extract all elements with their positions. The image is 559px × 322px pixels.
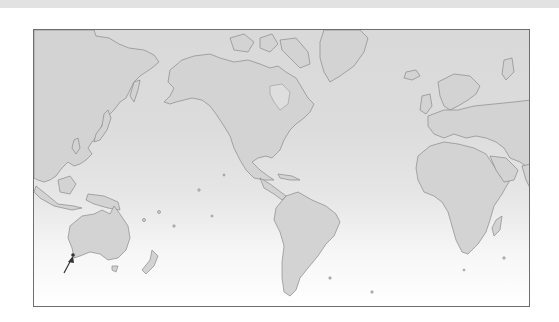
tasmania bbox=[112, 266, 118, 272]
central-america bbox=[260, 178, 286, 200]
cuba bbox=[278, 174, 300, 180]
pacific-island bbox=[223, 174, 225, 176]
pacific-island bbox=[211, 215, 213, 217]
indian-ocean-island bbox=[503, 257, 505, 259]
baffin-island bbox=[280, 38, 310, 68]
indian-ocean-island bbox=[463, 269, 465, 271]
north-america bbox=[164, 54, 314, 180]
atlantic-island bbox=[371, 291, 373, 293]
novaya-zemlya bbox=[502, 58, 514, 80]
pacific-island bbox=[143, 219, 146, 222]
scandinavia bbox=[438, 74, 480, 110]
sumatra-java bbox=[34, 186, 82, 210]
pacific-island bbox=[158, 211, 161, 214]
borneo bbox=[58, 176, 76, 194]
pacific-island bbox=[198, 189, 200, 191]
australia bbox=[68, 206, 130, 260]
asia-landmass bbox=[34, 30, 159, 182]
top-strip bbox=[0, 0, 559, 8]
great-britain bbox=[420, 94, 432, 114]
iceland bbox=[404, 70, 420, 80]
arctic-islands bbox=[260, 34, 278, 52]
atlantic-island bbox=[329, 277, 331, 279]
arctic-islands bbox=[230, 34, 254, 52]
arrow-head-icon bbox=[68, 256, 74, 263]
map-svg bbox=[34, 30, 530, 307]
new-zealand bbox=[142, 250, 158, 274]
greenland bbox=[320, 30, 368, 82]
pacific-island bbox=[173, 225, 175, 227]
madagascar bbox=[492, 216, 502, 236]
india bbox=[522, 164, 530, 190]
arrow-annotation bbox=[64, 253, 75, 273]
world-map bbox=[33, 29, 530, 307]
south-america bbox=[274, 192, 340, 296]
